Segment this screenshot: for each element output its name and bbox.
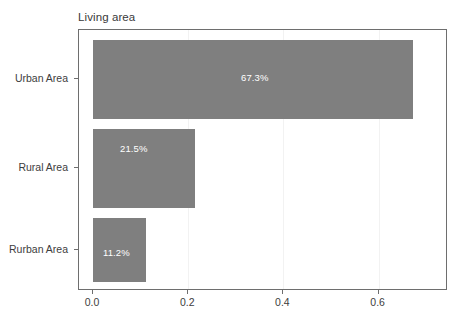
ytick-mark-rurban-area	[74, 249, 78, 250]
xtick-mark-0.4	[282, 290, 283, 294]
ytick-label-urban-area: Urban Area	[15, 72, 68, 84]
ytick-label-rural-area: Rural Area	[18, 161, 68, 173]
plot-area: 67.3% 21.5% 11.2%	[78, 29, 447, 290]
ytick-label-rurban-area: Rurban Area	[9, 243, 68, 255]
y-axis-labels: Urban Area Rural Area Rurban Area	[0, 29, 68, 290]
bar-label-urban-area: 67.3%	[241, 72, 268, 83]
xtick-label-0.4: 0.4	[275, 296, 290, 308]
xtick-label-0.6: 0.6	[370, 296, 385, 308]
bar-label-rurban-area: 11.2%	[103, 247, 130, 258]
xtick-mark-0.0	[92, 290, 93, 294]
bar-urban-area[interactable]: 67.3%	[93, 40, 413, 119]
chart-title: Living area	[78, 11, 135, 23]
xtick-label-0.0: 0.0	[85, 296, 100, 308]
xtick-label-0.2: 0.2	[180, 296, 195, 308]
bar-rural-area[interactable]: 21.5%	[93, 129, 195, 208]
xtick-mark-0.6	[378, 290, 379, 294]
ytick-mark-urban-area	[74, 78, 78, 79]
bar-label-rural-area: 21.5%	[120, 143, 147, 154]
xtick-mark-0.2	[187, 290, 188, 294]
ytick-mark-rural-area	[74, 167, 78, 168]
bar-chart-figure: Living area 67.3% 21.5% 11.2% Urban Area…	[0, 0, 464, 321]
bar-rurban-area[interactable]: 11.2%	[93, 218, 146, 282]
